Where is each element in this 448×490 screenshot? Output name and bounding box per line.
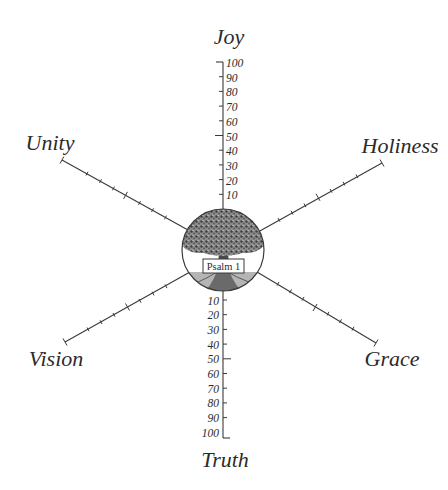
center-label-text: Psalm 1 bbox=[207, 261, 241, 272]
radar-diagram: 100 90 80 70 60 50 40 30 20 10 10 20 30 … bbox=[0, 0, 448, 490]
axis-label-joy: Joy bbox=[214, 24, 245, 49]
tick-label: 80 bbox=[226, 86, 238, 98]
tick-label: 30 bbox=[207, 324, 220, 336]
joy-tick-labels: 100 90 80 70 60 50 40 30 20 10 bbox=[225, 57, 244, 201]
tick-label: 80 bbox=[208, 397, 220, 409]
tick-label: 20 bbox=[208, 309, 220, 321]
truth-tick-labels: 10 20 30 40 50 60 70 80 90 100 bbox=[202, 295, 220, 439]
tick-label: 90 bbox=[208, 412, 220, 424]
tick-label: 30 bbox=[225, 160, 238, 172]
tick-label: 70 bbox=[226, 101, 238, 113]
tick-label: 50 bbox=[226, 131, 238, 143]
truth-ticks bbox=[223, 300, 231, 418]
tick-label: 100 bbox=[202, 427, 220, 439]
tick-label: 50 bbox=[208, 353, 220, 365]
center-label: Psalm 1 bbox=[203, 259, 244, 273]
axis-label-grace: Grace bbox=[365, 346, 420, 371]
tick-label: 100 bbox=[226, 57, 244, 69]
grace-axis-line bbox=[257, 272, 376, 343]
axis-label-truth: Truth bbox=[201, 447, 249, 472]
tick-label: 10 bbox=[226, 189, 238, 201]
unity-axis-line bbox=[62, 160, 188, 230]
tick-label: 60 bbox=[226, 116, 238, 128]
axis-label-holiness: Holiness bbox=[361, 133, 439, 158]
tick-label: 40 bbox=[226, 145, 238, 157]
tick-label: 20 bbox=[226, 175, 238, 187]
tick-label: 10 bbox=[208, 295, 220, 307]
holiness-axis-line bbox=[258, 163, 382, 232]
tree-icon bbox=[180, 208, 270, 297]
tick-label: 90 bbox=[226, 72, 238, 84]
tick-label: 70 bbox=[208, 383, 220, 395]
tick-label: 60 bbox=[208, 368, 220, 380]
tick-label: 40 bbox=[208, 339, 220, 351]
axis-label-unity: Unity bbox=[26, 130, 75, 155]
joy-ticks bbox=[215, 77, 223, 195]
axis-label-vision: Vision bbox=[29, 346, 84, 371]
